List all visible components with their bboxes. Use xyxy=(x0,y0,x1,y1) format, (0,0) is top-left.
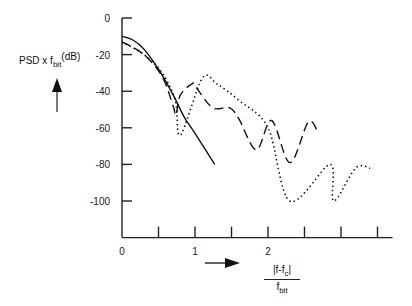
y-tick-label: -20 xyxy=(96,50,111,61)
psd-chart: 0-20-40-60-80-100012 xyxy=(0,0,412,306)
x-axis-label: |f-fc| fbit xyxy=(264,264,300,295)
y-tick-label: 0 xyxy=(104,13,110,24)
y-tick-label: -100 xyxy=(90,196,110,207)
y-tick-label: -60 xyxy=(96,123,111,134)
x-tick-label: 2 xyxy=(265,246,271,257)
xlabel-num-bar: | xyxy=(288,264,291,275)
x-tick-label: 1 xyxy=(192,246,198,257)
x-arrow-head-icon xyxy=(225,258,240,268)
series-dotted-line xyxy=(122,42,370,202)
xlabel-numerator: |f-fc| xyxy=(264,264,300,280)
y-tick-label: -40 xyxy=(96,86,111,97)
y-tick-label: -80 xyxy=(96,159,111,170)
xlabel-num-text: |f-f xyxy=(273,264,284,275)
xlabel-denominator: fbit xyxy=(264,280,300,295)
xlabel-den-sub: bit xyxy=(279,286,287,295)
y-arrow-head-icon xyxy=(52,78,62,92)
y-axis-label: PSD x fbit(dB) xyxy=(19,51,80,69)
x-tick-label: 0 xyxy=(119,246,125,257)
series-group xyxy=(122,36,370,201)
axis-arrows xyxy=(52,78,240,268)
ylabel-text: PSD x f xyxy=(19,55,53,66)
tick-labels: 0-20-40-60-80-100012 xyxy=(90,13,271,257)
axes xyxy=(122,18,393,238)
ylabel-unit: (dB) xyxy=(61,51,80,62)
series-solid-line xyxy=(122,36,215,164)
series-dashed-line xyxy=(122,42,318,163)
